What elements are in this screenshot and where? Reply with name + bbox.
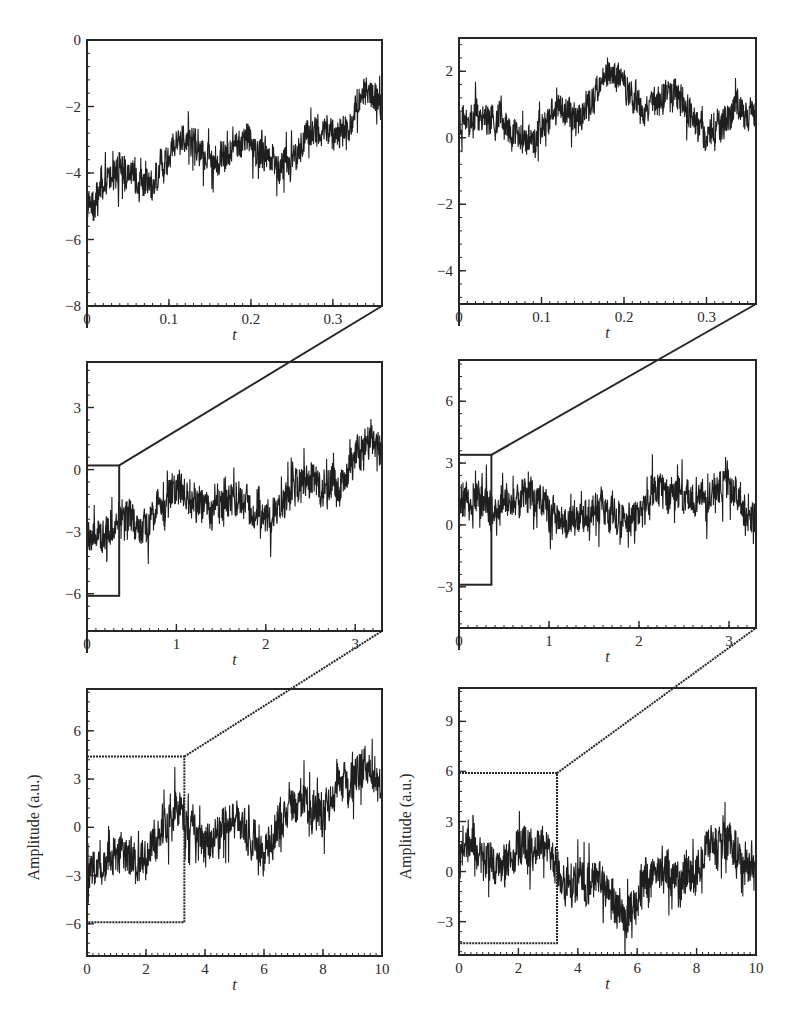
x-tick-label: 2 — [262, 636, 270, 652]
y-tick-label: 0 — [74, 462, 82, 478]
panel-bottom-right: 0246810−30369tAmplitude (a.u.) — [397, 688, 764, 992]
x-tick-label: 3 — [725, 633, 733, 649]
x-axis-title: t — [232, 651, 237, 668]
x-tick-label: 2 — [515, 960, 523, 976]
y-axis-title: Amplitude (a.u.) — [25, 774, 43, 880]
zoom-connector-lines — [87, 304, 756, 773]
x-tick-label: 8 — [693, 960, 701, 976]
zoom-region-box — [87, 757, 184, 923]
x-tick-label: 4 — [201, 961, 209, 977]
x-axis-title: t — [232, 326, 237, 343]
signal-trace — [459, 802, 756, 963]
y-tick-label: −2 — [437, 196, 453, 212]
y-tick-label: −8 — [65, 298, 81, 314]
y-tick-label: −2 — [65, 99, 81, 115]
x-tick-label: 0.1 — [532, 309, 551, 325]
y-tick-label: −6 — [65, 232, 81, 248]
y-tick-label: 0 — [74, 32, 82, 48]
signal-trace — [87, 419, 382, 564]
y-axis-title: Amplitude (a.u.) — [397, 773, 415, 879]
y-tick-label: 6 — [74, 723, 82, 739]
x-tick-label: 0.3 — [323, 311, 342, 327]
zoom-connector-line — [557, 628, 756, 773]
x-axis-title: t — [605, 324, 610, 341]
x-tick-label: 0 — [455, 633, 463, 649]
x-tick-label: 0.1 — [160, 311, 179, 327]
x-axis-title: t — [605, 648, 610, 665]
x-tick-label: 0 — [83, 311, 91, 327]
x-tick-label: 3 — [351, 636, 359, 652]
y-tick-label: 0 — [446, 864, 454, 880]
x-axis-title: t — [232, 976, 237, 993]
x-tick-label: 2 — [142, 961, 150, 977]
y-tick-label: 0 — [74, 819, 82, 835]
y-tick-label: −6 — [65, 586, 81, 602]
x-tick-label: 0.3 — [697, 309, 716, 325]
x-tick-label: 10 — [375, 961, 390, 977]
panel-mid-right: 0123−3036t — [437, 360, 756, 665]
panel-bottom-left: 0246810−6−3036tAmplitude (a.u.) — [25, 689, 390, 993]
y-tick-label: −4 — [65, 165, 81, 181]
y-tick-label: 3 — [446, 814, 454, 830]
x-axis-title: t — [605, 975, 610, 992]
signal-trace — [459, 58, 756, 162]
y-tick-label: −3 — [65, 524, 81, 540]
y-tick-label: 3 — [446, 455, 454, 471]
panel-top-right: 00.10.20.3−4−202t — [437, 38, 756, 341]
signal-trace — [87, 76, 382, 221]
x-tick-label: 1 — [173, 636, 181, 652]
y-tick-label: −6 — [65, 916, 81, 932]
x-tick-label: 1 — [545, 633, 553, 649]
y-tick-label: −3 — [437, 579, 453, 595]
panel-top-left: 00.10.20.3−8−6−4−20t — [65, 32, 382, 343]
y-tick-label: −3 — [65, 868, 81, 884]
zoom-connector-line — [491, 304, 756, 455]
y-tick-label: 9 — [446, 713, 454, 729]
x-tick-label: 0 — [455, 309, 463, 325]
y-tick-label: −4 — [437, 263, 453, 279]
y-tick-label: 3 — [74, 400, 82, 416]
y-tick-label: −3 — [437, 914, 453, 930]
y-tick-label: 6 — [446, 393, 454, 409]
y-tick-label: 6 — [446, 763, 454, 779]
x-tick-label: 0 — [83, 636, 91, 652]
x-tick-label: 0.2 — [615, 309, 634, 325]
y-tick-label: 2 — [446, 63, 454, 79]
x-tick-label: 0.2 — [242, 311, 261, 327]
y-tick-label: 0 — [446, 130, 454, 146]
x-tick-label: 4 — [574, 960, 582, 976]
x-tick-label: 6 — [260, 961, 268, 977]
y-tick-label: 3 — [74, 771, 82, 787]
x-tick-label: 0 — [455, 960, 463, 976]
axes-frame — [459, 688, 756, 955]
x-tick-label: 10 — [749, 960, 764, 976]
signal-trace — [459, 454, 756, 549]
x-tick-label: 2 — [635, 633, 643, 649]
panel-mid-left: 0123−6−303t — [65, 362, 382, 668]
signal-trace — [87, 739, 382, 904]
x-tick-label: 8 — [319, 961, 327, 977]
x-tick-label: 0 — [83, 961, 91, 977]
x-tick-label: 6 — [633, 960, 641, 976]
y-tick-label: 0 — [446, 517, 454, 533]
figure-canvas: 00.10.20.3−8−6−4−20t 00.10.20.3−4−202t 0… — [0, 0, 800, 1029]
zoom-connector-line — [119, 306, 382, 465]
